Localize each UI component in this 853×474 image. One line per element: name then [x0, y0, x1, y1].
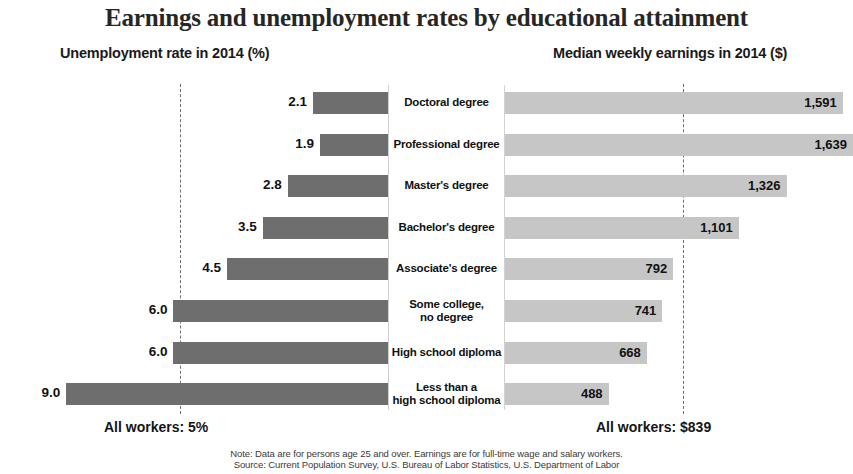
earnings-bar: [505, 134, 853, 156]
category-label-line: Bachelor's degree: [388, 221, 505, 234]
category-label: High school diploma: [388, 346, 505, 359]
earnings-value-label: 1,639: [807, 137, 847, 152]
category-label-line: Some college,: [388, 298, 505, 311]
earnings-value-label: 741: [616, 303, 656, 318]
category-label-line: Associate's degree: [388, 262, 505, 275]
earnings-bar: [505, 92, 843, 114]
unemployment-bar: [320, 134, 388, 156]
unemployment-bar: [288, 175, 388, 197]
unemployment-value-label: 3.5: [215, 219, 257, 234]
earnings-value-label: 488: [563, 386, 603, 401]
unemployment-value-label: 9.0: [18, 385, 60, 400]
unemployment-bar: [66, 383, 388, 405]
category-label: Professional degree: [388, 138, 505, 151]
category-label: Less than ahigh school diploma: [388, 381, 505, 406]
unemployment-bar: [173, 342, 388, 364]
unemployment-value-label: 2.1: [265, 94, 307, 109]
category-label-line: Doctoral degree: [388, 96, 505, 109]
earnings-value-label: 668: [601, 345, 641, 360]
right-axis-heading: Median weekly earnings in 2014 ($): [553, 45, 787, 61]
category-label: Master's degree: [388, 179, 505, 192]
earnings-value-label: 792: [627, 261, 667, 276]
category-label-line: Professional degree: [388, 138, 505, 151]
left-axis-heading: Unemployment rate in 2014 (%): [60, 45, 269, 61]
unemployment-bar: [227, 258, 388, 280]
unemployment-value-label: 2.8: [240, 177, 282, 192]
chart-source: Source: Current Population Survey, U.S. …: [0, 459, 853, 470]
unemployment-reference-line: [180, 84, 181, 414]
category-label-line: High school diploma: [388, 346, 505, 359]
category-label-line: no degree: [388, 311, 505, 324]
unemployment-value-label: 6.0: [125, 302, 167, 317]
category-label-line: high school diploma: [388, 394, 505, 407]
unemployment-value-label: 1.9: [272, 136, 314, 151]
unemployment-bar: [173, 300, 388, 322]
chart-title: Earnings and unemployment rates by educa…: [0, 4, 853, 32]
category-label: Some college,no degree: [388, 298, 505, 323]
category-label-line: Master's degree: [388, 179, 505, 192]
unemployment-value-label: 4.5: [179, 260, 221, 275]
category-label: Associate's degree: [388, 262, 505, 275]
chart-note: Note: Data are for persons age 25 and ov…: [0, 448, 853, 459]
earnings-value-label: 1,591: [797, 95, 837, 110]
chart-canvas: Earnings and unemployment rates by educa…: [0, 0, 853, 474]
category-label-line: Less than a: [388, 381, 505, 394]
category-label: Bachelor's degree: [388, 221, 505, 234]
center-column-divider-left: [388, 85, 389, 410]
earnings-value-label: 1,326: [741, 178, 781, 193]
unemployment-bar: [263, 217, 388, 239]
earnings-value-label: 1,101: [693, 220, 733, 235]
all-workers-unemployment: All workers: 5%: [104, 419, 208, 435]
unemployment-value-label: 6.0: [125, 344, 167, 359]
all-workers-earnings: All workers: $839: [596, 419, 711, 435]
category-label: Doctoral degree: [388, 96, 505, 109]
unemployment-bar: [313, 92, 388, 114]
